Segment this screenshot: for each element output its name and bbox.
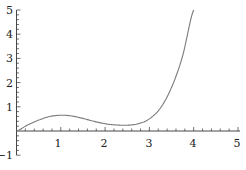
x-tick-label: 1 [55, 137, 62, 150]
y-tick-label: 5 [6, 4, 13, 17]
x-tick-label: 2 [101, 137, 108, 150]
x-tick-label: 3 [146, 137, 153, 150]
axes [17, 10, 241, 155]
x-tick-label: 4 [190, 137, 197, 150]
x-tick-label: 5 [234, 137, 241, 150]
line-chart: 1 2 3 4 5 5 4 3 2 1 −1 [0, 0, 246, 170]
y-tick-label: 3 [6, 52, 13, 65]
y-tick-label: 4 [6, 28, 13, 41]
y-tick-label: 2 [6, 77, 13, 90]
y-tick-label: 1 [6, 101, 13, 114]
tick-labels: 1 2 3 4 5 5 4 3 2 1 −1 [0, 4, 241, 162]
y-tick-label: −1 [0, 149, 13, 162]
function-curve [17, 10, 194, 131]
